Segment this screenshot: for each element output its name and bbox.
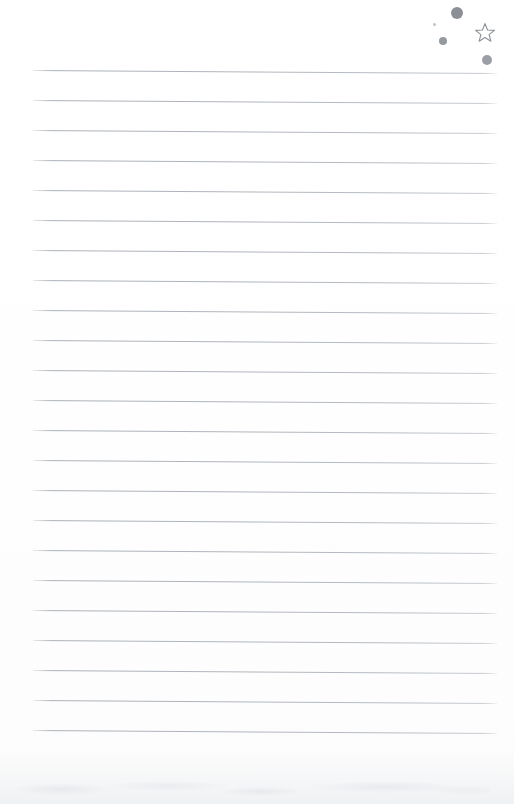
star-icon (474, 22, 496, 44)
ink-dot-large (451, 7, 463, 19)
rule-line (33, 400, 497, 404)
rule-line (33, 190, 497, 194)
rule-line (33, 700, 497, 704)
ink-dot-small (482, 55, 492, 65)
ruled-lines-layer (0, 0, 514, 804)
rule-line (33, 370, 497, 374)
rule-line (33, 220, 497, 224)
rule-line (33, 130, 497, 134)
rule-line (33, 520, 497, 524)
rule-line (33, 490, 497, 494)
rule-line (33, 100, 497, 104)
rule-line (33, 550, 497, 554)
rule-line (33, 430, 497, 434)
rule-line (33, 310, 497, 314)
rule-line (33, 580, 497, 584)
rule-line (33, 160, 497, 164)
rule-line (33, 640, 497, 644)
rule-line (33, 670, 497, 674)
rule-line (33, 610, 497, 614)
rule-line (33, 730, 497, 734)
ink-dot-medium (439, 37, 447, 45)
notepaper-page (0, 0, 514, 804)
ink-dot-tiny (433, 23, 436, 26)
rule-line (33, 280, 497, 284)
rule-line (33, 250, 497, 254)
rule-line (33, 340, 497, 344)
rule-line (33, 460, 497, 464)
doodle-cluster (410, 0, 514, 78)
